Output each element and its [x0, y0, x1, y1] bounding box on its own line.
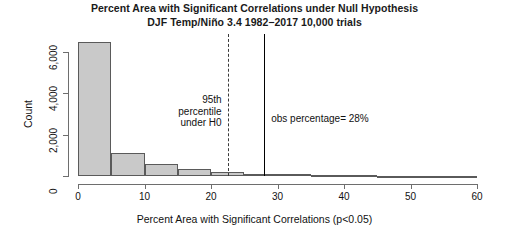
x-tick: [411, 184, 412, 189]
y-axis-line: [68, 52, 69, 177]
y-axis-label: Count: [22, 100, 34, 128]
y-tick-label: 2,000: [48, 128, 59, 153]
observed-line: [264, 34, 265, 176]
x-tick-label: 30: [263, 191, 293, 202]
histogram-bar: [178, 169, 211, 176]
x-tick: [78, 184, 79, 189]
y-tick-label: 6,000: [48, 45, 59, 70]
x-tick: [211, 184, 212, 189]
x-axis-label: Percent Area with Significant Correlatio…: [0, 213, 509, 225]
percentile-annotation-line2: percentile: [144, 106, 222, 118]
percentile-line: [228, 34, 229, 176]
histogram-bar: [244, 174, 277, 176]
histogram-bar: [444, 176, 477, 178]
observed-annotation: obs percentage= 28%: [271, 113, 369, 124]
percentile-annotation: 95th percentile under H0: [144, 94, 222, 129]
plot-area: 02,0004,0006,000 Count 0102030405060 Per…: [0, 0, 509, 237]
x-tick-label: 20: [196, 191, 226, 202]
x-tick-label: 0: [63, 191, 93, 202]
y-tick: [63, 135, 68, 136]
x-tick-label: 60: [462, 191, 492, 202]
x-tick-label: 10: [130, 191, 160, 202]
histogram-bar: [377, 176, 410, 178]
histogram-bar: [145, 164, 178, 176]
x-tick-label: 40: [329, 191, 359, 202]
y-tick: [63, 176, 68, 177]
x-tick: [477, 184, 478, 189]
x-tick: [344, 184, 345, 189]
histogram-bar: [411, 176, 444, 178]
histogram-chart: Percent Area with Significant Correlatio…: [0, 0, 509, 237]
percentile-annotation-line3: under H0: [144, 117, 222, 129]
y-tick-label: 0: [48, 188, 59, 194]
x-tick: [145, 184, 146, 189]
histogram-bar: [111, 153, 144, 176]
y-tick: [63, 93, 68, 94]
percentile-annotation-line1: 95th: [144, 94, 222, 106]
histogram-bar: [78, 42, 111, 176]
x-tick: [278, 184, 279, 189]
y-tick: [63, 52, 68, 53]
x-tick-label: 50: [396, 191, 426, 202]
histogram-bar: [278, 174, 311, 176]
histogram-bar: [344, 175, 377, 177]
histogram-bar: [311, 175, 344, 177]
y-tick-label: 4,000: [48, 86, 59, 111]
